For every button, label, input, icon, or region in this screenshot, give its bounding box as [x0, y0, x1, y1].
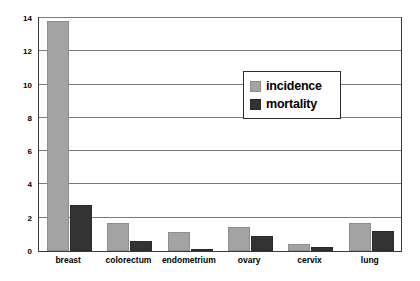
y-tick-label: 10 [8, 82, 32, 90]
bar-mortality-lung [372, 231, 394, 251]
bar-chart: 02468101214 breastcolorectumendometriumo… [0, 0, 420, 281]
legend-item-incidence: incidence [250, 77, 334, 95]
y-tick-label: 8 [8, 115, 32, 123]
y-tick-label: 14 [8, 15, 32, 23]
chart-legend: incidencemortality [243, 71, 341, 119]
bar-group [280, 18, 340, 251]
legend-label-incidence: incidence [266, 80, 322, 93]
legend-swatch-mortality [250, 99, 261, 110]
bar-mortality-endometrium [191, 249, 213, 251]
bar-group [160, 18, 220, 251]
bar-group [39, 18, 99, 251]
x-axis: breastcolorectumendometriumovarycervixlu… [38, 256, 402, 274]
y-axis: 02468101214 [8, 17, 34, 252]
bar-incidence-ovary [228, 227, 250, 251]
y-tick-label: 4 [8, 181, 32, 189]
x-tick-label: ovary [219, 256, 279, 265]
legend-item-mortality: mortality [250, 95, 334, 113]
x-tick-label: colorectum [98, 256, 158, 265]
bar-mortality-breast [70, 205, 92, 251]
x-tick-label: endometrium [159, 256, 219, 265]
y-tick-label: 6 [8, 148, 32, 156]
legend-label-mortality: mortality [266, 98, 317, 111]
bar-mortality-colorectum [130, 241, 152, 251]
bar-incidence-breast [47, 21, 69, 251]
bar-group [341, 18, 401, 251]
y-tick-label: 12 [8, 48, 32, 56]
bar-incidence-endometrium [168, 232, 190, 251]
bar-incidence-lung [349, 223, 371, 251]
bar-incidence-colorectum [107, 223, 129, 251]
bar-mortality-ovary [251, 236, 273, 251]
legend-swatch-incidence [250, 81, 261, 92]
bars-layer [39, 18, 401, 251]
bar-group [99, 18, 159, 251]
y-tick-label: 0 [8, 248, 32, 256]
bar-group [220, 18, 280, 251]
x-tick-label: cervix [279, 256, 339, 265]
x-tick-label: lung [340, 256, 400, 265]
bar-incidence-cervix [288, 244, 310, 251]
bar-mortality-cervix [311, 247, 333, 251]
y-tick-label: 2 [8, 215, 32, 223]
x-tick-label: breast [38, 256, 98, 265]
